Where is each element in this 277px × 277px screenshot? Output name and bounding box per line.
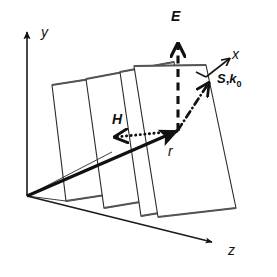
wavevector-symbol: k xyxy=(229,71,236,86)
y-axis-label: y xyxy=(41,25,48,39)
figure-canvas: y x z E H r S,k0 xyxy=(0,0,277,277)
poynting-symbol: S xyxy=(217,71,226,86)
wavevector-subscript: 0 xyxy=(237,79,242,89)
x-axis-label: x xyxy=(232,47,239,61)
E-field-label: E xyxy=(171,9,180,23)
position-vector-label: r xyxy=(168,144,173,158)
H-field-label: H xyxy=(112,112,122,126)
poynting-wavevector-label: S,k0 xyxy=(217,72,242,89)
z-axis-label: z xyxy=(228,243,235,257)
wavefront-plane-group xyxy=(52,62,236,217)
wavefront-diagram-svg xyxy=(0,0,277,277)
